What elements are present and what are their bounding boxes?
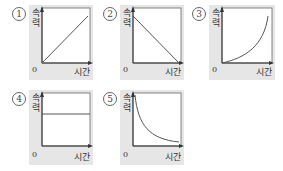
x-axis-label: 시간 (165, 65, 181, 78)
y-axis-label: 속력 (30, 8, 41, 28)
y-axis-label: 속력 (121, 93, 132, 113)
x-axis-label: 시간 (165, 150, 181, 163)
y-axis-label: 속력 (30, 93, 41, 113)
graph-panel-2: 2 속력 0 시간 (91, 0, 185, 80)
origin-label: 0 (32, 65, 37, 74)
origin-label: 0 (32, 150, 37, 159)
graph-panel-5: 5 속력 0 시간 (91, 85, 185, 165)
graph-panel-1: 1 속력 0 시간 (0, 0, 94, 80)
x-axis-label: 시간 (256, 65, 272, 78)
graph-panel-3: 3 속력 0 시간 (180, 0, 274, 80)
y-axis-label: 속력 (210, 8, 221, 28)
graph-panel-4: 4 속력 0 시간 (0, 85, 94, 165)
origin-label: 0 (123, 150, 128, 159)
x-axis-label: 시간 (74, 65, 90, 78)
x-axis-label: 시간 (74, 150, 90, 163)
origin-label: 0 (123, 65, 128, 74)
origin-label: 0 (212, 65, 217, 74)
y-axis-label: 속력 (121, 8, 132, 28)
